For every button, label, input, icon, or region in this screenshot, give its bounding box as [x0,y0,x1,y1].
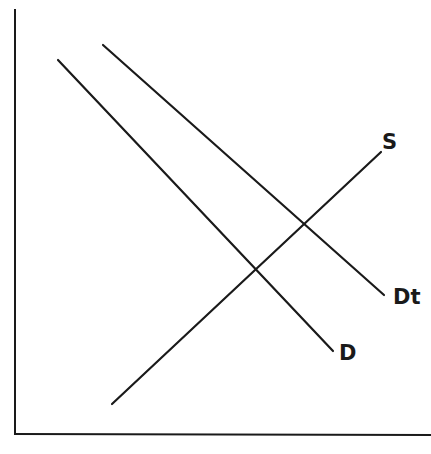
diagram-canvas [0,0,431,454]
supply-curve [112,152,381,404]
x-axis [15,434,431,435]
supply-label: S [382,132,397,153]
demand-curve [58,60,333,351]
supply-demand-diagram: D Dt S [0,0,431,454]
shifted-demand-label: Dt [393,287,420,308]
demand-label: D [339,343,356,364]
